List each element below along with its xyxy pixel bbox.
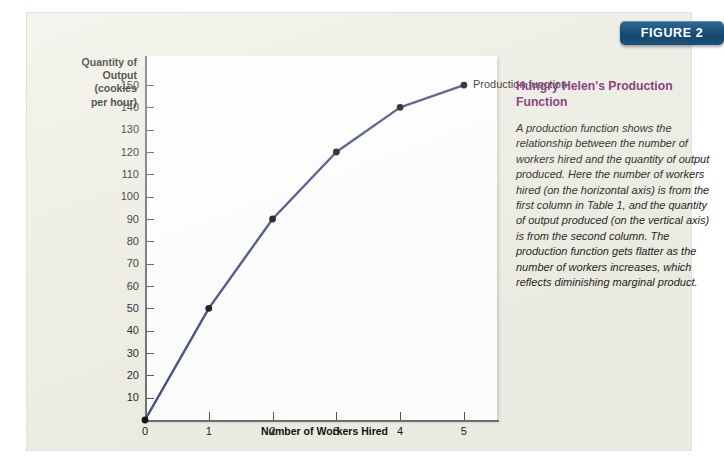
y-tick-label: 150 — [73, 80, 139, 91]
data-point-marker — [333, 149, 340, 156]
y-tick-label: 130 — [73, 124, 139, 135]
data-point-marker — [461, 82, 468, 89]
x-tick-label: 5 — [452, 426, 476, 437]
x-tick-label: 1 — [197, 426, 221, 437]
production-function-line — [145, 85, 464, 420]
y-tick-label: 40 — [73, 325, 139, 336]
production-function-chart: Quantity of Output (cookies per hour) 10… — [67, 48, 507, 438]
y-tick-label: 100 — [73, 191, 139, 202]
y-tick-label: 110 — [73, 169, 139, 180]
y-tick-label: 20 — [73, 370, 139, 381]
figure-panel: FIGURE 2 Quantity of Output (cookies per… — [27, 13, 691, 450]
caption-body: A production function shows the relation… — [516, 121, 712, 290]
y-tick-label: 80 — [73, 236, 139, 247]
y-tick-label: 120 — [73, 147, 139, 158]
y-tick-label: 30 — [73, 348, 139, 359]
data-point-marker — [205, 305, 212, 312]
production-function-markers — [142, 82, 468, 424]
data-point-marker — [397, 104, 404, 111]
x-axis-title: Number of Workers Hired — [261, 425, 388, 437]
y-tick-label: 140 — [73, 102, 139, 113]
x-tick-label: 4 — [388, 426, 412, 437]
data-point-marker — [142, 417, 149, 424]
caption-column: Hungry Helen's Production Function A pro… — [516, 79, 712, 290]
y-tick-label: 70 — [73, 258, 139, 269]
y-tick-label: 10 — [73, 392, 139, 403]
y-tick-label: 60 — [73, 281, 139, 292]
figure-number-badge: FIGURE 2 — [620, 21, 724, 45]
data-point-marker — [269, 216, 276, 223]
y-tick-label: 50 — [73, 303, 139, 314]
x-tick-label: 0 — [133, 426, 157, 437]
series-layer — [145, 56, 499, 422]
y-tick-label: 90 — [73, 214, 139, 225]
caption-title: Hungry Helen's Production Function — [516, 79, 712, 110]
